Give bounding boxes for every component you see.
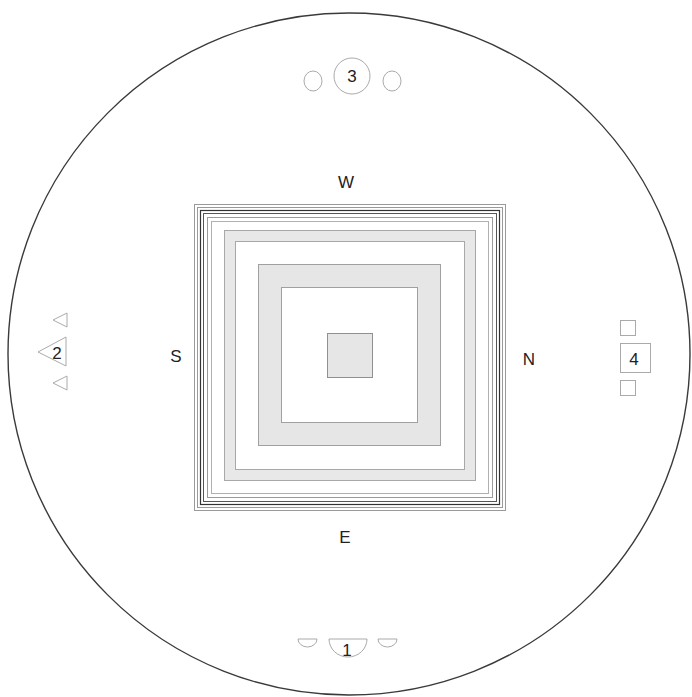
direction-label-east: E — [339, 528, 350, 547]
marker-3-label: 3 — [347, 67, 356, 86]
central-square-structure — [195, 205, 506, 511]
small-square-icon — [621, 381, 636, 396]
diagram-canvas: W E S N 3 1 2 4 — [0, 0, 692, 697]
small-semicircle-icon — [298, 639, 317, 647]
small-semicircle-icon — [378, 639, 397, 647]
direction-label-north: N — [523, 350, 535, 369]
small-circle-icon — [304, 71, 322, 91]
small-triangle-icon — [53, 376, 67, 390]
marker-3-group: 3 — [304, 58, 401, 94]
direction-label-south: S — [170, 347, 181, 366]
marker-4-group: 4 — [621, 321, 651, 396]
small-circle-icon — [383, 71, 401, 91]
small-triangle-icon — [53, 313, 67, 327]
marker-2-group: 2 — [38, 313, 67, 390]
marker-1-label: 1 — [342, 641, 351, 660]
marker-1-group: 1 — [298, 639, 397, 660]
direction-label-west: W — [338, 173, 354, 192]
small-square-icon — [621, 321, 636, 336]
center-square — [328, 334, 373, 378]
marker-2-label: 2 — [52, 344, 61, 363]
marker-4-label: 4 — [629, 350, 638, 369]
